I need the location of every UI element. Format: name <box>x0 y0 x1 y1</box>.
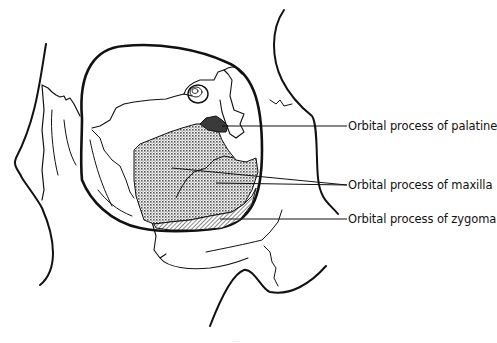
mandible-notch <box>210 266 326 326</box>
nasal-bone-edge <box>42 85 80 200</box>
label-palatine: Orbital process of palatine <box>348 119 497 133</box>
figure-caption-fragment: ... <box>232 334 239 343</box>
suture-upper <box>92 94 192 128</box>
left-facial-contour <box>15 44 53 285</box>
label-zygoma: Orbital process of zygoma <box>348 212 496 226</box>
label-maxilla: Orbital process of maxilla <box>348 178 492 192</box>
